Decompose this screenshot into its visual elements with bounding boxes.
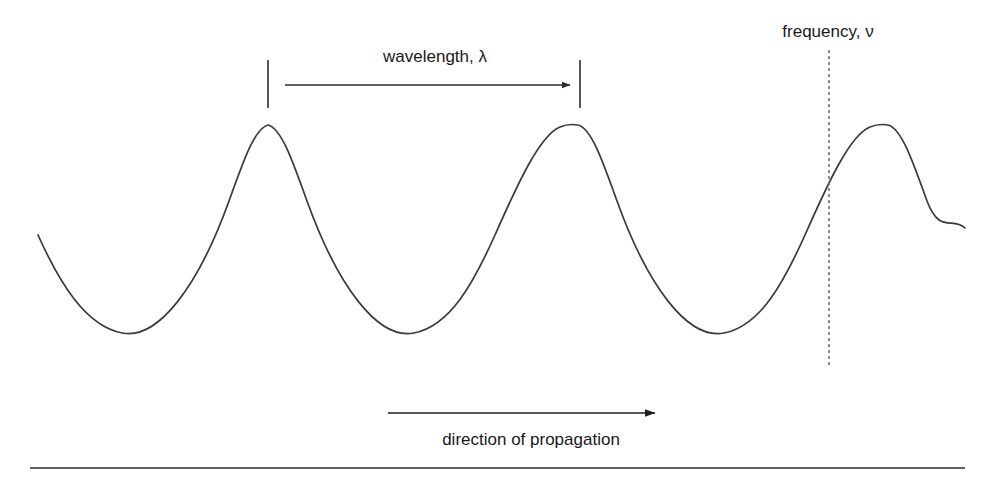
wave-diagram-canvas: wavelength, λ frequency, ν direction of …: [0, 0, 998, 481]
wave-diagram-figure: wavelength, λ frequency, ν direction of …: [0, 0, 998, 481]
wavelength-label: wavelength, λ: [382, 47, 487, 66]
frequency-label: frequency, ν: [782, 22, 873, 41]
wave-curve: [38, 124, 965, 333]
propagation-label: direction of propagation: [442, 430, 620, 449]
